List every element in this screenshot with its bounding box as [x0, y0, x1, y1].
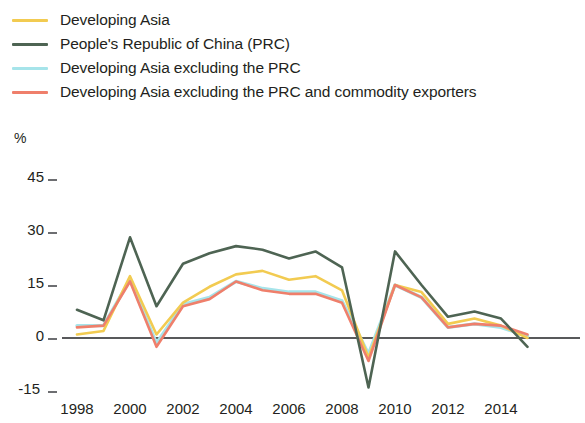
plot-area — [0, 0, 585, 423]
chart-container: Developing Asia People's Republic of Chi… — [0, 0, 585, 423]
